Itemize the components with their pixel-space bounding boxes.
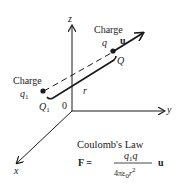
- charge-q1-title: Charge: [13, 76, 42, 86]
- z-axis-label: z: [68, 14, 72, 24]
- distance-r-label: r: [83, 86, 87, 96]
- charge-q-point: [110, 48, 115, 53]
- x-axis-label: x: [14, 166, 18, 176]
- law-numerator: q1q: [124, 151, 138, 163]
- charge-q-title: Charge: [94, 25, 123, 35]
- charge-q-symbol: q: [102, 38, 107, 48]
- law-unit-vector: u: [158, 158, 164, 168]
- origin-label: 0: [62, 101, 67, 111]
- law-lhs: F =: [78, 158, 92, 168]
- y-axis-label: y: [167, 105, 171, 115]
- point-q1-label: Q1: [39, 102, 50, 114]
- dashed-connector: [44, 52, 113, 91]
- unit-vector-u: [114, 33, 143, 51]
- r-vector-line: [47, 56, 116, 99]
- x-axis: [17, 111, 72, 163]
- unit-vector-label: u: [120, 36, 126, 46]
- law-denominator: 4πε0r2: [114, 167, 136, 180]
- charge-q1-symbol: q1: [20, 89, 29, 101]
- charge-q1-point: [40, 88, 45, 93]
- law-title: Coulomb's Law: [77, 140, 143, 151]
- point-q-label: Q: [117, 56, 124, 66]
